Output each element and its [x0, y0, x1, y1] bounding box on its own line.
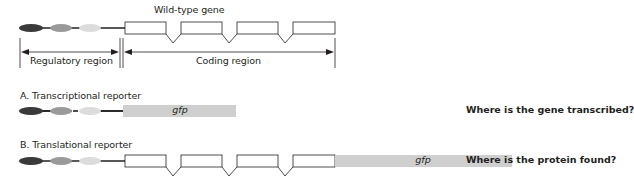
gfp-label: gfp — [415, 154, 430, 165]
translational-reporter-title: B. Translational reporter — [20, 139, 132, 150]
transcription-question: Where is the gene transcribed? — [466, 104, 634, 115]
exon-3 — [237, 22, 278, 34]
enhancer-mid-icon — [50, 157, 72, 165]
regulatory-region-label: Regulatory region — [30, 55, 113, 66]
enhancer-light-icon — [79, 157, 101, 165]
enhancer-dark-icon — [19, 24, 43, 32]
enhancer-light-icon — [79, 24, 101, 32]
exon-1 — [125, 22, 166, 34]
enhancer-dark-icon — [19, 107, 43, 115]
transcriptional-reporter-construct — [19, 105, 236, 117]
transcriptional-reporter-title: A. Transcriptional reporter — [20, 90, 141, 101]
arrow-right-icon — [326, 49, 334, 55]
enhancer-mid-icon — [50, 107, 72, 115]
exon-2 — [181, 155, 222, 167]
protein-location-question: Where is the protein found? — [466, 154, 616, 165]
arrow-left-icon — [21, 49, 29, 55]
arrow-left-icon — [124, 49, 132, 55]
exon-2 — [181, 22, 222, 34]
wild-type-gene-title: Wild-type gene — [154, 4, 225, 15]
exon-3 — [237, 155, 278, 167]
exon-1 — [125, 155, 166, 167]
introns — [166, 34, 293, 43]
translational-reporter-construct — [19, 155, 512, 176]
enhancer-dark-icon — [19, 157, 43, 165]
enhancer-mid-icon — [50, 24, 72, 32]
exon-4 — [293, 22, 335, 34]
gfp-label: gfp — [172, 104, 187, 115]
coding-region-label: Coding region — [196, 55, 261, 66]
exon-4 — [293, 155, 335, 167]
enhancer-light-icon — [79, 107, 101, 115]
exons — [125, 22, 335, 34]
